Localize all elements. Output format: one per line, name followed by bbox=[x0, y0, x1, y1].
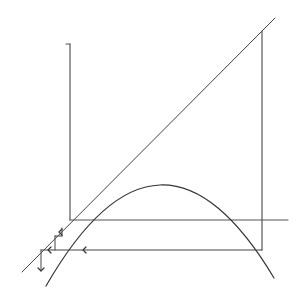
parabola-curve bbox=[46, 185, 274, 286]
cobweb-plot-svg bbox=[0, 0, 303, 300]
cobweb-diagram bbox=[0, 0, 303, 300]
identity-line bbox=[22, 18, 275, 272]
